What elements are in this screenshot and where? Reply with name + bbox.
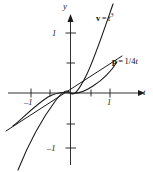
curve-velocity-cubic <box>18 4 113 170</box>
x-tick-label-neg1: –1 <box>24 98 33 107</box>
x-axis-label: t <box>143 88 146 97</box>
position-equals-sign: = <box>117 56 125 66</box>
position-variable: t <box>135 56 137 66</box>
y-axis-label: y <box>63 2 67 11</box>
position-coefficient-fraction: 1/4 <box>125 57 136 66</box>
math-figure: y t 1 –1 1 –1 v=t3 p=1/4t <box>0 0 153 172</box>
velocity-expression-exponent: 3 <box>110 12 113 18</box>
x-tick-label-1: 1 <box>107 98 111 107</box>
curve-label-position: p=1/4t <box>112 57 138 66</box>
position-coefficient-numerator: 1 <box>125 56 129 66</box>
curve-label-velocity: v=t3 <box>96 14 113 23</box>
secant-line <box>6 56 122 131</box>
velocity-equals-sign: = <box>100 13 108 23</box>
y-tick-label-1: 1 <box>52 29 56 38</box>
plot-canvas <box>0 0 153 172</box>
y-tick-label-neg1: –1 <box>47 144 56 153</box>
